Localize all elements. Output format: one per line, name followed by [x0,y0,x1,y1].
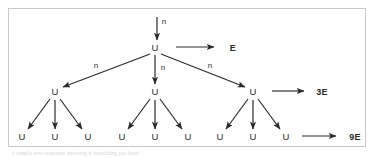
node-level2-3: U [250,87,257,97]
edge-label-input: n [162,18,166,26]
node-level3-9: U [283,132,290,142]
edge-label-middle-branch: n [161,64,165,72]
edge-level2-middle-children [128,99,182,129]
node-level3-4: U [119,132,126,142]
result-label-level3: 9E [349,133,361,142]
node-level3-5: U [152,132,159,142]
edge-label-left-branch: n [94,62,98,70]
node-level2-1: U [52,87,59,97]
node-level3-2: U [52,132,59,142]
result-label-level2: 3E [316,88,328,97]
node-level3-3: U [85,132,92,142]
edge-level2-right-children [226,99,280,129]
node-level2-2: U [152,87,159,97]
node-level3-7: U [217,132,224,142]
edge-level2-left-children [28,99,82,129]
edge-root-to-level2-left [63,54,150,87]
node-level3-6: U [185,132,192,142]
node-root: U [152,43,159,53]
edge-label-right-branch: n [208,62,212,70]
result-label-level1: E [230,44,236,53]
figure-root: n U E n n n U U U 3E U U U U U U U U U 9… [0,0,374,158]
node-level3-1: U [19,132,26,142]
page-bleed-text: a simple tree structure showing n branch… [12,150,312,157]
node-level3-8: U [250,132,257,142]
edge-root-to-level2-right [161,54,245,87]
